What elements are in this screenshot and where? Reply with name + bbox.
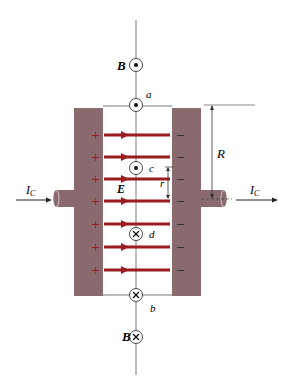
r-dimension <box>165 167 173 199</box>
minus-sign: − <box>176 264 185 277</box>
current-arrow-right <box>236 198 278 203</box>
point-c-label: c <box>149 162 154 174</box>
B-label-top: B <box>116 58 126 73</box>
current-label-right: IC <box>249 183 260 198</box>
cross-into-page-icon <box>130 331 143 344</box>
dot-out-of-page-icon <box>130 162 143 175</box>
minus-sign: − <box>176 195 185 208</box>
field-line: +− <box>91 173 185 186</box>
plus-sign: + <box>91 173 100 186</box>
current-label-left: IC <box>25 183 36 198</box>
point-a-label: a <box>146 88 152 100</box>
field-line: +− <box>91 129 185 142</box>
plus-sign: + <box>91 264 100 277</box>
point-d-label: d <box>149 228 155 240</box>
point-b-label: b <box>150 302 156 314</box>
minus-sign: − <box>176 241 185 254</box>
plus-sign: + <box>91 241 100 254</box>
current-arrow-left <box>16 198 52 203</box>
minus-sign: − <box>176 151 185 164</box>
B-label-bottom: B <box>121 329 131 344</box>
capacitor-diagram: +−+−+−+−+−+−+− B a c d b B E R r IC IC <box>0 0 290 386</box>
electric-field-lines: +−+−+−+−+−+−+− <box>91 129 185 277</box>
minus-sign: − <box>176 129 185 142</box>
dot-out-of-page-icon <box>130 59 143 72</box>
R-dimension <box>204 105 255 199</box>
field-line: +− <box>91 264 185 277</box>
plus-sign: + <box>91 129 100 142</box>
minus-sign: − <box>176 218 185 231</box>
plus-sign: + <box>91 151 100 164</box>
dot-out-of-page-icon <box>130 99 143 112</box>
field-line: +− <box>91 241 185 254</box>
field-line: +− <box>91 195 185 208</box>
cross-into-page-icon <box>130 228 143 241</box>
minus-sign: − <box>176 173 185 186</box>
R-label: R <box>216 146 225 161</box>
plus-sign: + <box>91 218 100 231</box>
cross-into-page-icon <box>130 289 143 302</box>
r-label: r <box>160 177 165 189</box>
E-label: E <box>116 182 125 196</box>
plus-sign: + <box>91 195 100 208</box>
